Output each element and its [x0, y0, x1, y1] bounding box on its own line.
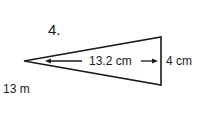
base-note-label: 13 m [3, 83, 30, 95]
problem-number: 4. [48, 22, 61, 37]
length-label: 13.2 cm [89, 55, 132, 67]
triangle-diagram [0, 0, 203, 138]
side-label: 4 cm [166, 55, 192, 67]
left-arrowhead-icon [45, 59, 51, 64]
right-arrowhead-icon [152, 59, 158, 64]
